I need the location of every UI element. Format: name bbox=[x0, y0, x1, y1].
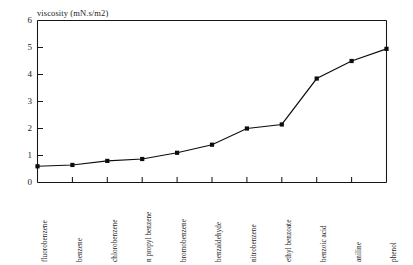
x-axis-ticks bbox=[72, 177, 351, 183]
data-point-benzene bbox=[70, 163, 74, 167]
y-axis-ticks bbox=[38, 48, 44, 156]
data-point-chlorobenzene bbox=[105, 159, 109, 163]
data-point-aniline bbox=[350, 59, 354, 63]
data-point-bromobenzene bbox=[175, 151, 179, 155]
data-point-fluorobenzene bbox=[35, 164, 39, 168]
viscosity-line-chart: viscosity (mN.s/m2) 0123456 fluorobenzen… bbox=[0, 0, 413, 265]
viscosity-data-markers bbox=[35, 47, 388, 169]
axis-spines bbox=[38, 21, 387, 183]
data-point-benzaldehyde bbox=[210, 143, 214, 147]
viscosity-series-line bbox=[38, 49, 387, 166]
plot-area bbox=[0, 0, 413, 265]
data-point-phenol bbox=[384, 47, 388, 51]
data-point-benzoic-acid bbox=[315, 76, 319, 80]
data-point-ethyl-benzoate bbox=[280, 122, 284, 126]
data-point-n-propyl-benzene bbox=[140, 157, 144, 161]
data-point-nitrobenzene bbox=[245, 126, 249, 130]
